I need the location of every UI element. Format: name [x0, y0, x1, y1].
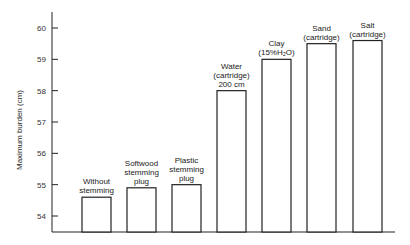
bar-label: Sand [312, 24, 331, 33]
bar-label: stemming [169, 165, 204, 174]
bar [353, 41, 382, 232]
y-tick-label: 54 [37, 212, 46, 221]
bar [307, 44, 336, 232]
bar-label: plug [134, 177, 149, 186]
bar-label: Salt [361, 21, 376, 30]
bar-label: (cartridge) [213, 71, 250, 80]
y-tick-label: 60 [37, 24, 46, 33]
bar [217, 91, 246, 232]
y-tick-label: 59 [37, 55, 46, 64]
bar-label: plug [179, 174, 194, 183]
y-axis-label: Maximum burden (cm) [15, 90, 24, 170]
y-tick-label: 57 [37, 118, 46, 127]
bar-label: Without [83, 177, 111, 186]
bar-label: 200 cm [218, 80, 245, 89]
y-tick-label: 56 [37, 149, 46, 158]
bar [127, 188, 156, 232]
bar [172, 185, 201, 232]
bar-label: Water [221, 62, 242, 71]
y-tick-label: 58 [37, 87, 46, 96]
bar-label: (15%H₂O) [258, 48, 295, 57]
bars: WithoutstemmingSoftwoodstemmingplugPlast… [79, 21, 386, 232]
bar-label: stemming [79, 186, 114, 195]
bar [82, 197, 111, 232]
bar-label: Softwood [125, 159, 158, 168]
y-ticks: 54555657585960 [37, 24, 58, 221]
bar-chart: Maximum burden (cm) 54555657585960 Witho… [0, 0, 410, 245]
bar [262, 59, 291, 232]
bar-label: (cartridge) [303, 33, 340, 42]
bar-label: Clay [268, 39, 284, 48]
bar-label: Plastic [175, 156, 199, 165]
bar-label: (cartridge) [349, 30, 386, 39]
bar-label: stemming [124, 168, 159, 177]
y-tick-label: 55 [37, 181, 46, 190]
